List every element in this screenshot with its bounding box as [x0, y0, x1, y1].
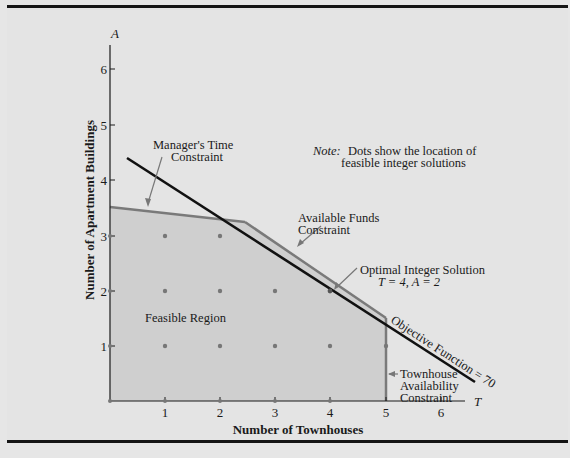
svg-text:Constraint: Constraint — [171, 150, 224, 164]
feasible-region-label: Feasible Region — [145, 311, 227, 325]
note-label: Note: Dots show the location of feasible… — [312, 144, 477, 170]
managers-time-label: Manager's Time Constraint — [153, 138, 234, 164]
lp-graph: 1 2 3 4 5 6 1 2 3 4 5 6 A T Number of To… — [0, 0, 570, 458]
svg-text:T = 4, A = 2: T = 4, A = 2 — [378, 275, 440, 289]
y-axis-variable: A — [110, 26, 119, 41]
svg-text:3: 3 — [101, 229, 108, 244]
figure-frame: 1 2 3 4 5 6 1 2 3 4 5 6 A T Number of To… — [0, 0, 570, 458]
svg-text:1: 1 — [101, 339, 108, 354]
optimal-solution-label: Optimal Integer Solution T = 4, A = 2 — [360, 263, 486, 289]
svg-text:4: 4 — [101, 173, 108, 188]
x-tick-labels: 1 2 3 4 5 6 — [162, 405, 445, 420]
available-funds-label: Available Funds Constraint — [298, 211, 379, 237]
svg-text:1: 1 — [162, 405, 169, 420]
y-tick-labels: 1 2 3 4 5 6 — [101, 62, 108, 354]
optimal-integer-point — [328, 289, 333, 294]
svg-text:feasible integer solutions: feasible integer solutions — [341, 156, 466, 170]
svg-text:5: 5 — [383, 405, 390, 420]
svg-text:5: 5 — [101, 118, 108, 133]
svg-text:3: 3 — [272, 405, 279, 420]
svg-text:6: 6 — [438, 405, 445, 420]
y-axis-title: Number of Apartment Buildings — [82, 120, 97, 300]
svg-text:Constraint: Constraint — [298, 223, 351, 237]
x-axis-variable: T — [474, 394, 482, 409]
svg-text:2: 2 — [217, 405, 224, 420]
svg-text:6: 6 — [101, 62, 108, 77]
svg-text:Constraint: Constraint — [400, 391, 453, 405]
x-axis-title: Number of Townhouses — [233, 422, 364, 437]
svg-text:2: 2 — [101, 284, 108, 299]
townhouse-availability-label: Townhouse Availability Constraint — [400, 367, 460, 405]
svg-text:4: 4 — [327, 405, 334, 420]
